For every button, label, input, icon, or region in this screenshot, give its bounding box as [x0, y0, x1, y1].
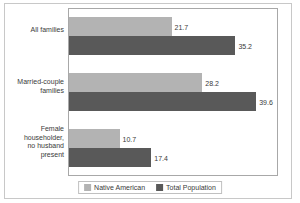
bar-line: 10.7 — [69, 129, 277, 148]
legend-label: Total Population — [166, 184, 216, 191]
legend-entry-total-population: Total Population — [156, 184, 216, 191]
category-label-line: Married-couple — [2, 78, 64, 87]
category-label-line: All families — [2, 26, 64, 35]
legend-entry-native-american: Native American — [84, 184, 145, 191]
category-label-line: householder, — [2, 134, 64, 143]
bar-native-american-0 — [69, 17, 172, 36]
bar-group: 10.7 17.4 — [69, 129, 277, 167]
bar-group: 28.2 39.6 — [69, 73, 277, 111]
category-label-line: present — [2, 151, 64, 160]
legend-swatch-icon — [84, 184, 91, 191]
category-label-line: families — [2, 87, 64, 96]
bar-value-native-american-2: 10.7 — [120, 135, 137, 142]
legend-label: Native American — [94, 184, 145, 191]
bar-value-total-population-2: 17.4 — [151, 154, 168, 161]
bar-native-american-2 — [69, 129, 120, 148]
bar-line: 39.6 — [69, 92, 277, 111]
bar-line: 28.2 — [69, 73, 277, 92]
bar-total-population-0 — [69, 36, 235, 55]
bar-line: 35.2 — [69, 36, 277, 55]
category-label-female-householder: Female householder, no husband present — [2, 125, 64, 159]
category-label-married-couple-families: Married-couple families — [2, 78, 64, 95]
bar-value-native-american-1: 28.2 — [202, 79, 219, 86]
category-label-line: no husband — [2, 142, 64, 151]
bar-group: 21.7 35.2 — [69, 17, 277, 55]
category-label-all-families: All families — [2, 26, 64, 35]
bar-total-population-1 — [69, 92, 256, 111]
legend-swatch-icon — [156, 184, 163, 191]
bar-value-total-population-0: 35.2 — [235, 42, 252, 49]
plot-area: 21.7 35.2 28.2 39.6 10.7 — [68, 8, 278, 176]
bar-native-american-1 — [69, 73, 202, 92]
bar-total-population-2 — [69, 148, 151, 167]
bar-value-total-population-1: 39.6 — [256, 98, 273, 105]
category-label-line: Female — [2, 125, 64, 134]
bar-line: 21.7 — [69, 17, 277, 36]
bar-line: 17.4 — [69, 148, 277, 167]
chart-legend: Native American Total Population — [78, 181, 222, 194]
bar-chart-figure: 21.7 35.2 28.2 39.6 10.7 — [0, 0, 300, 203]
bar-value-native-american-0: 21.7 — [172, 23, 189, 30]
